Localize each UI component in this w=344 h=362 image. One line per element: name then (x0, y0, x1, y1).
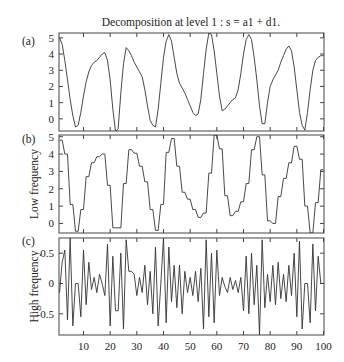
decomposition-figure: Decomposition at level 1 : s = a1 + d1. … (0, 0, 344, 362)
y-tick-label: 2 (49, 80, 55, 92)
y-tick-label: 3 (49, 64, 55, 76)
x-tick-label: 40 (158, 340, 170, 352)
x-tick-label: 70 (238, 340, 250, 352)
y-tick-label: 4 (49, 148, 55, 160)
panel-a-signal: (a)012345 (22, 32, 324, 132)
y-tick-label: 0 (49, 217, 55, 229)
panel-c-high-frequency: (c)-0.500.5102030405060708090100High fre… (22, 235, 332, 352)
x-tick-label: 60 (211, 340, 223, 352)
y-tick-label: 0 (49, 113, 55, 125)
panel-label: (b) (22, 133, 36, 146)
plot-frame (59, 135, 324, 233)
x-tick-label: 90 (291, 340, 303, 352)
x-tick-label: 20 (105, 340, 117, 352)
panel-b-low-frequency: (b)012345Low frequency (22, 131, 324, 233)
y-tick-label: 0.5 (40, 247, 54, 259)
series-line-d1 (60, 238, 324, 335)
plot-frame (59, 33, 324, 131)
y-tick-label: 4 (49, 48, 55, 60)
y-tick-label: 0 (49, 277, 55, 289)
series-line-s (60, 33, 324, 132)
x-tick-label: 30 (131, 340, 143, 352)
x-tick-label: 10 (78, 340, 90, 352)
series-line-a1 (60, 135, 324, 233)
y-tick-label: 5 (49, 32, 55, 44)
panel-label: (c) (22, 235, 35, 248)
y-axis-label: High frequency (28, 250, 41, 322)
figure-title: Decomposition at level 1 : s = a1 + d1. (102, 16, 281, 29)
y-tick-label: 1 (49, 200, 55, 212)
y-tick-label: 2 (49, 183, 55, 195)
y-axis-label: Low frequency (28, 149, 41, 219)
y-tick-label: 5 (49, 131, 55, 143)
x-tick-label: 50 (185, 340, 197, 352)
panel-label: (a) (22, 35, 35, 48)
y-tick-label: 3 (49, 165, 55, 177)
y-tick-label: 1 (49, 97, 55, 109)
x-tick-label: 80 (265, 340, 277, 352)
x-tick-label: 100 (315, 340, 332, 352)
